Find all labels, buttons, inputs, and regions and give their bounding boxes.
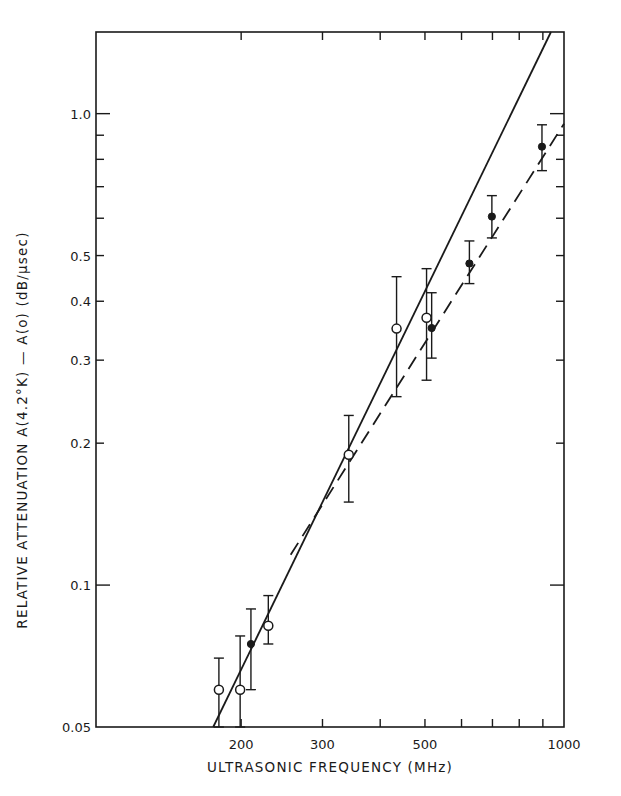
y-tick-label: 0.05 bbox=[62, 720, 91, 735]
attenuation-chart: 20030050010000.050.10.20.30.40.51.0 ULTR… bbox=[0, 0, 621, 796]
x-tick-label: 300 bbox=[310, 737, 335, 752]
axis-ticks bbox=[96, 32, 564, 727]
axis-tick-labels: 20030050010000.050.10.20.30.40.51.0 bbox=[62, 107, 581, 752]
filled-data-point bbox=[428, 324, 435, 331]
x-tick-label: 200 bbox=[229, 737, 254, 752]
open-data-point bbox=[236, 685, 245, 694]
plot-frame bbox=[96, 32, 564, 727]
open-data-point bbox=[264, 621, 273, 630]
open-data-point bbox=[392, 324, 401, 333]
data-points bbox=[214, 125, 547, 727]
y-tick-label: 0.3 bbox=[70, 353, 91, 368]
open-data-point bbox=[422, 313, 431, 322]
x-tick-label: 500 bbox=[413, 737, 438, 752]
filled-data-point bbox=[488, 213, 495, 220]
y-tick-label: 0.2 bbox=[70, 436, 91, 451]
plot-border bbox=[96, 32, 564, 727]
filled-data-point bbox=[466, 260, 473, 267]
y-tick-label: 0.1 bbox=[70, 578, 91, 593]
x-axis-title: ULTRASONIC FREQUENCY (MHz) bbox=[207, 759, 453, 775]
y-tick-label: 0.4 bbox=[70, 294, 91, 309]
filled-data-point bbox=[247, 640, 254, 647]
y-axis-title: RELATIVE ATTENUATION A(4.2°K) — A(o) (dB… bbox=[14, 231, 30, 628]
y-tick-label: 1.0 bbox=[70, 107, 91, 122]
solid-fit-line bbox=[213, 32, 551, 727]
filled-data-point bbox=[538, 143, 545, 150]
open-data-point bbox=[344, 450, 353, 459]
dashed-fit-line bbox=[291, 124, 564, 555]
x-tick-label: 1000 bbox=[547, 737, 580, 752]
open-data-point bbox=[214, 685, 223, 694]
y-tick-label: 0.5 bbox=[70, 249, 91, 264]
